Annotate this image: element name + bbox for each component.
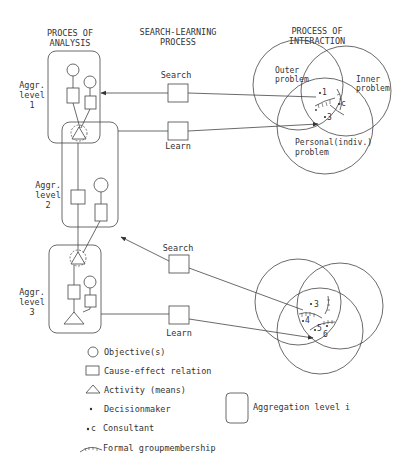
cause-effect-icon [95, 204, 107, 221]
objective-icon [94, 178, 108, 192]
top-learn-label: Learn [165, 141, 191, 151]
header-interaction: PROCESS OF INTERACTION [289, 26, 345, 46]
legend: Objective(s) Cause-effect relation Activ… [80, 347, 350, 453]
svg-text:Objective(s): Objective(s) [104, 347, 165, 357]
cause-effect-icon [85, 96, 96, 109]
svg-text:Aggr.: Aggr. [19, 80, 45, 90]
header-analysis: PROCES OF ANALYSIS [47, 28, 93, 48]
arrow-learn-to-interaction-bottom [189, 319, 313, 338]
objective-icon [67, 64, 79, 76]
activity-icon [71, 252, 85, 264]
level-3-label: Aggr. level 3 [19, 287, 45, 317]
legend-objective-icon [88, 347, 98, 357]
svg-text:PROCESS OF: PROCESS OF [291, 26, 342, 36]
top-search-box [168, 84, 188, 102]
bottom-search-label: Search [163, 243, 194, 253]
svg-text:Inner: Inner [356, 75, 380, 84]
svg-text:SEARCH-LEARNING: SEARCH-LEARNING [140, 27, 217, 37]
svg-text:problem: problem [295, 148, 329, 157]
bottom-learn-label: Learn [166, 328, 192, 338]
venn-top: Outer problem Inner problem Personal(ind… [253, 40, 391, 174]
venn-bottom: 3 4 5 6 [255, 259, 383, 374]
activity-icon [64, 312, 84, 324]
svg-text:c: c [91, 424, 96, 433]
level-3-model [64, 265, 96, 324]
svg-text:Activity (means): Activity (means) [104, 385, 186, 395]
svg-text:problem: problem [275, 75, 309, 84]
svg-text:Decisionmaker: Decisionmaker [104, 404, 171, 414]
legend-aggregation-icon [226, 393, 248, 423]
level-1-label: Aggr. level 1 [19, 80, 45, 110]
top-search-label: Search [161, 70, 192, 80]
aggregation-box-level-2 [62, 122, 118, 227]
svg-text:Aggr.: Aggr. [35, 180, 61, 190]
svg-text:level: level [35, 190, 61, 200]
cause-effect-icon [71, 190, 85, 204]
svg-text:c: c [341, 99, 346, 108]
svg-text:6: 6 [323, 330, 328, 339]
svg-text:Consultant: Consultant [103, 423, 154, 433]
legend-group-membership-icon [80, 447, 102, 452]
level-2-label: Aggr. level 2 [35, 180, 61, 210]
objective-icon [84, 276, 96, 288]
svg-text:problem: problem [356, 84, 390, 93]
bottom-learn-box [169, 306, 189, 324]
legend-consultant-icon [87, 428, 89, 430]
svg-text:Aggregation level i: Aggregation level i [253, 402, 350, 412]
level-1-model [67, 64, 96, 141]
svg-text:2: 2 [45, 200, 50, 210]
legend-cause-effect-icon [86, 366, 99, 375]
cause-effect-icon [67, 88, 79, 103]
svg-text:level: level [19, 297, 45, 307]
level-2-model [70, 143, 108, 266]
svg-text:Aggr.: Aggr. [19, 287, 45, 297]
top-learn-box [168, 122, 188, 140]
svg-text:Outer: Outer [275, 66, 299, 75]
cause-effect-icon [85, 295, 96, 307]
svg-text:1: 1 [322, 88, 327, 97]
cause-effect-icon [68, 285, 80, 299]
header-search-learning: SEARCH-LEARNING PROCESS [140, 27, 217, 47]
diagram-canvas: PROCES OF ANALYSIS SEARCH-LEARNING PROCE… [0, 0, 410, 471]
svg-text:ANALYSIS: ANALYSIS [50, 38, 91, 48]
svg-text:3: 3 [327, 113, 332, 122]
svg-text:3: 3 [314, 300, 319, 309]
legend-activity-icon [86, 385, 100, 393]
objective-icon [84, 76, 96, 88]
svg-text:Cause-effect relation: Cause-effect relation [104, 366, 211, 376]
bottom-search-box [169, 255, 189, 273]
svg-text:PROCESS: PROCESS [160, 37, 196, 47]
svg-text:Formal groupmembership: Formal groupmembership [103, 443, 216, 453]
svg-text:5: 5 [317, 324, 322, 333]
svg-text:Personal(indiv.): Personal(indiv.) [295, 138, 372, 147]
svg-text:4: 4 [305, 316, 310, 325]
svg-text:3: 3 [29, 307, 34, 317]
svg-text:PROCES OF: PROCES OF [47, 28, 93, 38]
svg-text:level: level [19, 90, 45, 100]
svg-text:1: 1 [29, 100, 34, 110]
legend-decisionmaker-icon [90, 408, 92, 410]
activity-icon [72, 127, 86, 139]
